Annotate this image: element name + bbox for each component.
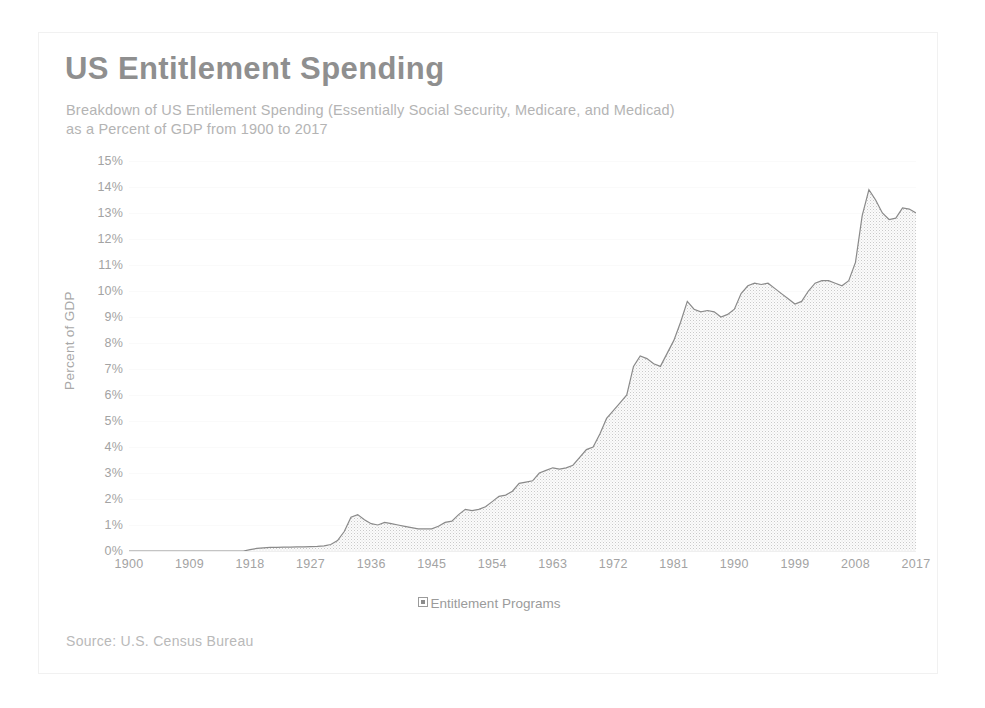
x-axis-tick-label: 1936 — [357, 557, 386, 571]
square-marker-icon — [418, 597, 428, 607]
x-axis-tick-label: 2008 — [841, 557, 870, 571]
x-axis-tick-label: 1981 — [659, 557, 688, 571]
x-axis-tick-label: 1900 — [114, 557, 143, 571]
y-axis-tick-label: 13% — [85, 206, 123, 220]
gridline — [129, 551, 916, 552]
x-axis-tick-label: 1999 — [780, 557, 809, 571]
y-axis-label: Percent of GDP — [62, 271, 77, 411]
chart-card: US Entitlement Spending Breakdown of US … — [38, 32, 938, 674]
x-axis-tick-label: 1909 — [175, 557, 204, 571]
y-axis-tick-label: 3% — [85, 466, 123, 480]
y-axis-tick-label: 7% — [85, 362, 123, 376]
y-axis-tick-label: 2% — [85, 492, 123, 506]
chart-subtitle: Breakdown of US Entilement Spending (Ess… — [66, 101, 686, 139]
x-axis-tick-label: 1963 — [538, 557, 567, 571]
y-axis-tick-label: 1% — [85, 518, 123, 532]
y-axis-tick-label: 9% — [85, 310, 123, 324]
x-axis-tick-label: 1954 — [478, 557, 507, 571]
y-axis-tick-label: 12% — [85, 232, 123, 246]
x-axis-tick-label: 1945 — [417, 557, 446, 571]
y-axis-tick-label: 5% — [85, 414, 123, 428]
x-axis-tick-label: 1918 — [236, 557, 265, 571]
y-axis-tick-label: 11% — [85, 258, 123, 272]
x-axis-ticks: 1900190919181927193619451954196319721981… — [129, 557, 916, 579]
y-axis-tick-label: 6% — [85, 388, 123, 402]
chart-legend: Entitlement Programs — [39, 595, 939, 611]
source-note: Source: U.S. Census Bureau — [66, 633, 254, 649]
x-axis-tick-label: 1927 — [296, 557, 325, 571]
y-axis-tick-label: 4% — [85, 440, 123, 454]
y-axis-tick-label: 15% — [85, 154, 123, 168]
x-axis-tick-label: 1972 — [599, 557, 628, 571]
area-chart-series — [129, 161, 916, 551]
y-axis-tick-label: 14% — [85, 180, 123, 194]
page-title: US Entitlement Spending — [65, 51, 445, 87]
y-axis-tick-label: 0% — [85, 544, 123, 558]
y-axis-tick-label: 8% — [85, 336, 123, 350]
y-axis-tick-label: 10% — [85, 284, 123, 298]
x-axis-tick-label: 2017 — [901, 557, 930, 571]
x-axis-tick-label: 1990 — [720, 557, 749, 571]
plot-area: 0%1%2%3%4%5%6%7%8%9%10%11%12%13%14%15% — [129, 161, 916, 551]
legend-item-label: Entitlement Programs — [431, 596, 561, 611]
